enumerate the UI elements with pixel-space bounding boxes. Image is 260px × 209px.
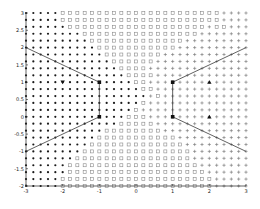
square-point bbox=[83, 178, 86, 181]
dot-point bbox=[32, 53, 34, 55]
plus-point bbox=[237, 129, 240, 132]
plus-point bbox=[237, 32, 240, 35]
dot-point bbox=[91, 109, 93, 111]
square-point bbox=[127, 122, 130, 125]
dot-point bbox=[76, 95, 78, 97]
square-point bbox=[149, 129, 152, 132]
dot-point bbox=[54, 19, 56, 21]
square-point bbox=[98, 178, 101, 181]
square-point bbox=[127, 157, 130, 160]
dot-point bbox=[120, 102, 122, 104]
dot-point bbox=[84, 143, 86, 145]
square-point bbox=[135, 81, 138, 84]
plus-point bbox=[237, 46, 240, 49]
square-point bbox=[98, 12, 101, 15]
plus-point bbox=[164, 53, 167, 56]
square-point bbox=[69, 178, 72, 181]
dot-point bbox=[91, 88, 93, 90]
plus-point bbox=[230, 150, 233, 153]
square-point bbox=[105, 150, 108, 153]
dot-point bbox=[69, 116, 71, 118]
square-point bbox=[164, 150, 167, 153]
plus-point bbox=[164, 81, 167, 84]
plus-point bbox=[244, 11, 247, 14]
plus-point bbox=[215, 171, 218, 174]
plus-point bbox=[230, 115, 233, 118]
square-point bbox=[105, 171, 108, 174]
dot-point bbox=[47, 19, 49, 21]
square-point bbox=[201, 171, 204, 174]
dot-point bbox=[62, 171, 64, 173]
plus-point bbox=[222, 39, 225, 42]
dot-point bbox=[91, 95, 93, 97]
dot-point bbox=[128, 102, 130, 104]
plus-point bbox=[186, 136, 189, 139]
square-point bbox=[142, 143, 145, 146]
dot-point bbox=[62, 136, 64, 138]
dot-point bbox=[76, 143, 78, 145]
dot-point bbox=[113, 67, 115, 69]
plus-point bbox=[208, 39, 211, 42]
square-point bbox=[157, 39, 160, 42]
plus-point bbox=[178, 122, 181, 125]
square-point bbox=[149, 150, 152, 153]
dot-point bbox=[47, 47, 49, 49]
plus-point bbox=[208, 60, 211, 63]
dot-point bbox=[113, 102, 115, 104]
square-point bbox=[135, 115, 138, 118]
square-point bbox=[179, 157, 182, 160]
dot-point bbox=[106, 81, 108, 83]
plus-point bbox=[244, 67, 247, 70]
dot-point bbox=[54, 130, 56, 132]
plus-point bbox=[200, 39, 203, 42]
dot-point bbox=[40, 136, 42, 138]
dot-point bbox=[76, 130, 78, 132]
square-point bbox=[193, 18, 196, 21]
square-point bbox=[171, 157, 174, 160]
square-point bbox=[127, 171, 130, 174]
square-point bbox=[193, 164, 196, 167]
plus-point bbox=[237, 177, 240, 180]
dot-point bbox=[76, 47, 78, 49]
y-tick-label: -0.5 bbox=[14, 131, 24, 137]
plus-point bbox=[222, 67, 225, 70]
square-point bbox=[135, 143, 138, 146]
y-tick-label: 2 bbox=[21, 44, 24, 50]
dot-point bbox=[40, 12, 42, 14]
square-point bbox=[171, 178, 174, 181]
plus-point bbox=[244, 108, 247, 111]
square-point bbox=[76, 164, 79, 167]
plus-point bbox=[244, 115, 247, 118]
square-point bbox=[127, 115, 130, 118]
dot-point bbox=[91, 81, 93, 83]
plus-point bbox=[215, 32, 218, 35]
dot-point bbox=[32, 88, 34, 90]
dot-point bbox=[113, 74, 115, 76]
dot-point bbox=[47, 33, 49, 35]
dot-point bbox=[84, 60, 86, 62]
dot-point bbox=[69, 157, 71, 159]
square-point bbox=[149, 53, 152, 56]
plus-point bbox=[186, 60, 189, 63]
square-point bbox=[193, 32, 196, 35]
square-point bbox=[120, 32, 123, 35]
square-point bbox=[120, 67, 123, 70]
plus-point bbox=[208, 164, 211, 167]
square-point bbox=[149, 46, 152, 49]
square-point bbox=[186, 150, 189, 153]
plus-point bbox=[156, 115, 159, 118]
dot-point bbox=[142, 95, 144, 97]
plus-point bbox=[200, 74, 203, 77]
dot-point bbox=[54, 74, 56, 76]
square-point bbox=[91, 178, 94, 181]
square-point bbox=[142, 129, 145, 132]
square-point bbox=[193, 25, 196, 28]
dot-point bbox=[32, 60, 34, 62]
square-point bbox=[105, 178, 108, 181]
dot-point bbox=[32, 12, 34, 14]
square-point bbox=[157, 157, 160, 160]
square-point bbox=[193, 171, 196, 174]
dot-point bbox=[40, 19, 42, 21]
dot-point bbox=[62, 164, 64, 166]
square-point bbox=[149, 88, 152, 91]
